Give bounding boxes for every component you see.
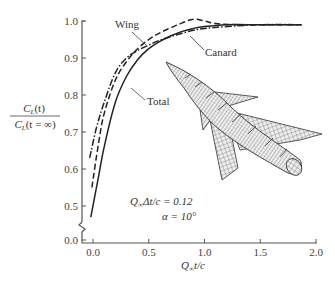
chart: 0.00.50.60.70.80.91.0 0.00.51.01.52.0	[0, 0, 335, 281]
x-ticks: 0.00.51.01.52.0	[86, 239, 323, 258]
y-tick-label: 0.8	[64, 89, 78, 101]
label-wing: Wing	[115, 18, 139, 30]
x-tick-label: 2.0	[309, 246, 323, 258]
y-tick-label: 0.9	[64, 52, 78, 64]
y-axis-break	[79, 222, 85, 240]
y-tick-label: 0.7	[64, 126, 78, 138]
leader-canard	[190, 36, 204, 50]
x-axis-label: Q∞t/c	[181, 259, 205, 273]
x-tick-label: 1.0	[198, 246, 212, 258]
y-axis	[82, 21, 85, 222]
y-axis-label-numerator: CL(t)	[23, 102, 45, 116]
label-canard: Canard	[205, 46, 237, 58]
label-total: Total	[147, 95, 169, 107]
x-tick-label: 0.5	[142, 246, 156, 258]
x-tick-label: 1.5	[253, 246, 267, 258]
y-axis-label-denominator: CL(t = ∞)	[14, 118, 56, 132]
curves	[90, 19, 302, 217]
param-alpha: α = 10°	[162, 210, 197, 222]
y-tick-label: 0.0	[64, 234, 78, 246]
leader-wing	[132, 32, 146, 45]
aircraft-mesh-illustration	[166, 62, 322, 180]
y-tick-label: 1.0	[64, 15, 78, 27]
y-tick-label: 0.5	[64, 200, 78, 212]
leader-total	[131, 88, 145, 100]
y-tick-label: 0.6	[64, 163, 78, 175]
x-axis	[82, 240, 317, 243]
x-tick-label: 0.0	[86, 246, 100, 258]
annotations: Wing Canard Total Q∞Δt/c = 0.12 α = 10° …	[10, 18, 237, 273]
y-ticks: 0.00.50.60.70.80.91.0	[64, 15, 86, 246]
param-dt: Q∞Δt/c = 0.12	[130, 195, 193, 209]
